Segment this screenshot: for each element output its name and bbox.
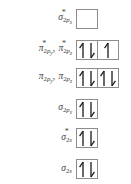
orbital-box[interactable]	[76, 128, 98, 148]
orbital-boxes-sigma-2s	[76, 159, 98, 179]
antibonding-star-icon: *	[62, 9, 66, 17]
electron-down-arrow-icon	[87, 70, 95, 87]
mo-label-sigma-2px: σ2px	[0, 103, 76, 115]
orbital-boxes-pi-2py-2pz	[76, 68, 119, 88]
electron-arrows	[79, 69, 95, 87]
orbital-term: σ*2px	[58, 13, 72, 25]
electron-up-arrow-icon	[79, 161, 87, 178]
orbital-subscript: 2py	[44, 75, 53, 82]
antibonding-star-icon: *	[62, 40, 66, 48]
orbital-boxes-sigma-star-2px	[76, 9, 98, 29]
mo-row-sigma-2s: σ2s	[0, 159, 131, 179]
orbital-subscript: 2s	[66, 136, 72, 143]
orbital-subscript: 2px	[63, 106, 72, 113]
orbital-symbol: π	[39, 71, 44, 81]
electron-arrows	[100, 69, 116, 87]
mo-label-sigma-star-2s: σ*2s	[0, 133, 76, 144]
mo-row-pi-star-2py-2pz: π*2py, π*2pz	[0, 40, 131, 60]
electron-down-arrow-icon	[108, 70, 116, 87]
electron-up-arrow-icon	[79, 101, 87, 118]
orbital-box[interactable]	[97, 68, 119, 88]
orbital-subscript: 2pz	[63, 75, 72, 82]
mo-label-pi-star-2py-2pz: π*2py, π*2pz	[0, 44, 76, 56]
electron-arrows	[79, 160, 95, 178]
mo-energy-diagram: σ*2pxπ*2py, π*2pzπ2py, π2pzσ2pxσ*2sσ2s	[0, 0, 131, 184]
electron-up-arrow-icon	[79, 130, 87, 147]
orbital-box[interactable]	[76, 68, 98, 88]
orbital-term: π*2py	[39, 44, 53, 56]
orbital-term: π*2pz	[58, 44, 72, 56]
electron-up-arrow-icon	[100, 70, 108, 87]
electron-down-arrow-icon	[87, 161, 95, 178]
electron-arrows	[79, 129, 95, 147]
mo-label-sigma-2s: σ2s	[0, 164, 76, 175]
electron-arrows	[79, 100, 95, 118]
orbital-subscript: 2pz	[63, 47, 72, 54]
mo-label-sigma-star-2px: σ*2px	[0, 13, 76, 25]
orbital-subscript: 2px	[63, 16, 72, 23]
orbital-term: σ2px	[58, 103, 72, 115]
orbital-subscript: 2s	[66, 167, 72, 174]
orbital-boxes-sigma-2px	[76, 99, 98, 119]
orbital-box[interactable]	[76, 40, 98, 60]
orbital-term: σ*2s	[61, 133, 72, 144]
orbital-boxes-pi-star-2py-2pz	[76, 40, 119, 60]
electron-down-arrow-icon	[87, 42, 95, 59]
mo-row-pi-2py-2pz: π2py, π2pz	[0, 68, 131, 88]
electron-down-arrow-icon	[87, 130, 95, 147]
electron-up-arrow-icon	[79, 70, 87, 87]
electron-arrows	[104, 41, 112, 59]
orbital-term: π2pz	[58, 72, 72, 84]
mo-row-sigma-2px: σ2px	[0, 99, 131, 119]
electron-arrows	[79, 41, 95, 59]
antibonding-star-icon: *	[65, 128, 69, 136]
orbital-box[interactable]	[76, 159, 98, 179]
orbital-subscript: 2py	[44, 47, 53, 54]
mo-label-pi-2py-2pz: π2py, π2pz	[0, 72, 76, 84]
orbital-box[interactable]	[76, 9, 98, 29]
mo-row-sigma-star-2px: σ*2px	[0, 9, 131, 29]
orbital-boxes-sigma-star-2s	[76, 128, 98, 148]
electron-up-arrow-icon	[79, 42, 87, 59]
orbital-term: π2py	[39, 72, 53, 84]
orbital-box[interactable]	[97, 40, 119, 60]
electron-up-arrow-icon	[104, 42, 112, 59]
mo-row-sigma-star-2s: σ*2s	[0, 128, 131, 148]
electron-down-arrow-icon	[87, 101, 95, 118]
antibonding-star-icon: *	[42, 40, 46, 48]
orbital-term: σ2s	[61, 164, 72, 175]
orbital-box[interactable]	[76, 99, 98, 119]
